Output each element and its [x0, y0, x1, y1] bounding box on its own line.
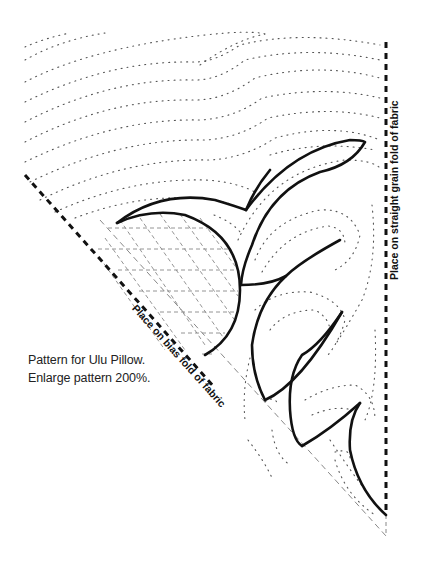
caption-instruction: Enlarge pattern 200%. [28, 369, 150, 387]
caption-title: Pattern for Ulu Pillow. [28, 351, 150, 369]
echo-quilting-lines [25, 32, 380, 240]
ulu-pillow-pattern [0, 0, 424, 569]
pattern-caption: Pattern for Ulu Pillow. Enlarge pattern … [28, 351, 150, 387]
straight-grain-label: Place on straight grain fold of fabric [388, 100, 400, 280]
